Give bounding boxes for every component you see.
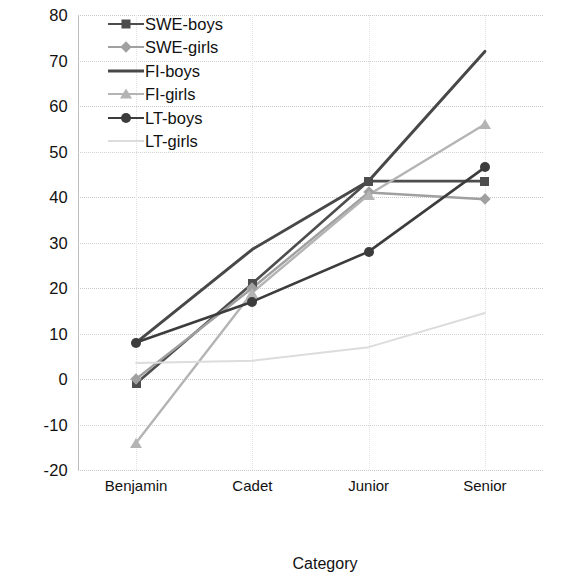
- legend-marker-icon: [120, 89, 132, 99]
- legend-swatch-icon: [108, 132, 144, 150]
- legend-swatch-icon: [108, 38, 144, 56]
- y-tick-label: 80: [22, 6, 68, 25]
- y-tick-label: 70: [22, 51, 68, 70]
- y-tick-label: 60: [22, 97, 68, 116]
- y-tick-label: 0: [22, 370, 68, 389]
- legend-item-swe-girls[interactable]: SWE-girls: [108, 36, 258, 60]
- data-point-marker: [479, 119, 491, 129]
- data-point-marker: [364, 177, 373, 186]
- y-tick-label: 20: [22, 279, 68, 298]
- series-line: [136, 167, 485, 342]
- line-chart: 80706050403020100-10-20 BenjaminCadetJun…: [0, 0, 585, 585]
- y-tick-label: 50: [22, 142, 68, 161]
- data-point-marker: [364, 247, 374, 257]
- data-point-marker: [131, 338, 141, 348]
- legend-item-lt-boys[interactable]: LT-boys: [108, 106, 258, 130]
- data-point-marker: [480, 177, 489, 186]
- legend-label: FI-boys: [144, 63, 200, 80]
- y-tick-label: 40: [22, 188, 68, 207]
- x-tick-label: Junior: [348, 477, 389, 494]
- data-point-marker: [247, 297, 257, 307]
- legend-label: LT-boys: [144, 110, 202, 127]
- series-line: [136, 124, 485, 443]
- series-line: [136, 192, 485, 379]
- legend-item-fi-boys[interactable]: FI-boys: [108, 59, 258, 83]
- data-point-marker: [130, 438, 142, 448]
- x-tick-label: Senior: [463, 477, 506, 494]
- y-tick-label: -10: [22, 415, 68, 434]
- legend: SWE-boysSWE-girlsFI-boysFI-girlsLT-boysL…: [108, 12, 258, 153]
- legend-marker-icon: [120, 42, 131, 53]
- x-tick-label: Benjamin: [105, 477, 168, 494]
- legend-label: FI-girls: [144, 86, 195, 103]
- legend-swatch-icon: [108, 62, 144, 80]
- legend-marker-icon: [122, 19, 131, 28]
- legend-swatch-icon: [108, 15, 144, 33]
- legend-marker-icon: [121, 113, 131, 123]
- legend-item-fi-girls[interactable]: FI-girls: [108, 83, 258, 107]
- legend-label: SWE-girls: [144, 39, 218, 56]
- legend-item-swe-boys[interactable]: SWE-boys: [108, 12, 258, 36]
- legend-swatch-icon: [108, 85, 144, 103]
- legend-label: LT-girls: [144, 133, 198, 150]
- gridline: [78, 470, 543, 471]
- legend-swatch-icon: [108, 109, 144, 127]
- x-axis-title: Category: [293, 555, 358, 573]
- y-tick-label: 30: [22, 233, 68, 252]
- y-tick-label: -20: [22, 461, 68, 480]
- y-axis-tick-labels: 80706050403020100-10-20: [0, 0, 68, 585]
- legend-label: SWE-boys: [144, 16, 223, 33]
- y-tick-label: 10: [22, 324, 68, 343]
- data-point-marker: [363, 190, 375, 200]
- x-tick-label: Cadet: [232, 477, 272, 494]
- legend-item-lt-girls[interactable]: LT-girls: [108, 130, 258, 154]
